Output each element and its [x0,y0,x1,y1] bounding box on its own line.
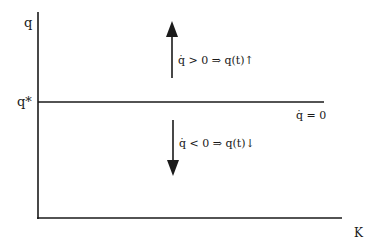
lower-region-text: q̇ < 0 ⇒ q(t)↓ [179,137,255,150]
phase-diagram: q q* q̇ = 0 q̇ > 0 ⇒ q(t)↑ q̇ < 0 ⇒ q(t)… [0,0,366,242]
steady-state-label: q* [17,94,32,109]
x-axis-label: K [354,226,364,240]
q-dot-zero-label: q̇ = 0 [296,109,326,122]
diagram-canvas: q q* q̇ = 0 q̇ > 0 ⇒ q(t)↑ q̇ < 0 ⇒ q(t)… [0,0,366,242]
upper-region-text: q̇ > 0 ⇒ q(t)↑ [178,54,254,67]
up-arrow-icon [166,21,178,37]
down-arrow-icon [167,160,179,176]
y-axis-label: q [24,15,32,30]
